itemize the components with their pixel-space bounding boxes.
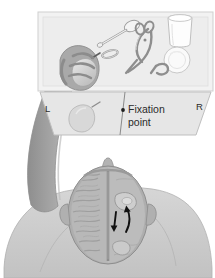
illustration-canvas: L R Fixation point xyxy=(0,0,215,278)
fixation-point-label-line1: Fixation xyxy=(128,103,165,115)
cup-icon xyxy=(168,15,192,47)
fixation-point-dot xyxy=(121,108,125,112)
left-field-label: L xyxy=(45,103,50,114)
right-field-label: R xyxy=(196,101,203,112)
fixation-point-label-line2: point xyxy=(128,116,151,128)
visual-field-background xyxy=(40,92,211,135)
visual-field-panel: L R Fixation point xyxy=(40,92,211,135)
figure-root: L R Fixation point xyxy=(0,0,215,278)
